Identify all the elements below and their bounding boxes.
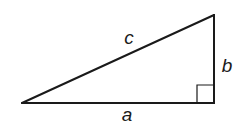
label-b: b (222, 55, 233, 76)
label-a: a (122, 104, 133, 125)
hypotenuse-side-c (22, 15, 214, 103)
right-triangle-diagram: c b a (0, 0, 252, 130)
triangle (22, 15, 214, 103)
label-c: c (124, 27, 134, 48)
right-angle-marker (197, 85, 214, 103)
